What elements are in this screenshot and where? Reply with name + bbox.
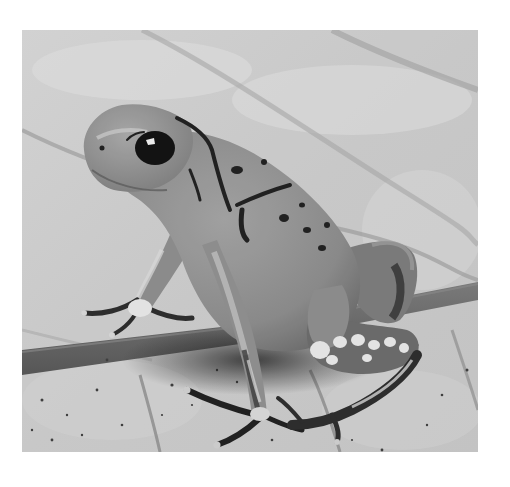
frog-photo (22, 30, 478, 452)
image-canvas: Grayscale photograph of a poison dart fr… (0, 0, 510, 487)
frog-photo-illustration (22, 30, 478, 452)
